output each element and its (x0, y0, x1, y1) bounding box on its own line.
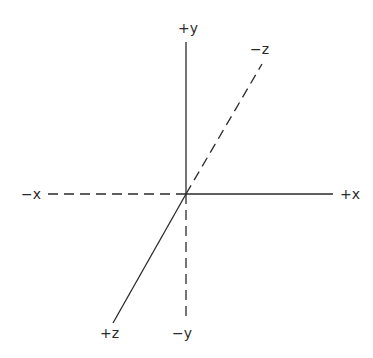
coordinate-axes-diagram: +y −z −x +x +z −y (0, 0, 373, 358)
positive-z-axis (113, 194, 186, 323)
negative-z-axis (186, 64, 262, 194)
label-negative-y: −y (172, 325, 192, 341)
label-negative-z: −z (250, 41, 269, 57)
label-positive-z: +z (100, 325, 119, 341)
label-positive-y: +y (178, 20, 198, 36)
label-negative-x: −x (21, 186, 41, 202)
label-positive-x: +x (340, 186, 360, 202)
